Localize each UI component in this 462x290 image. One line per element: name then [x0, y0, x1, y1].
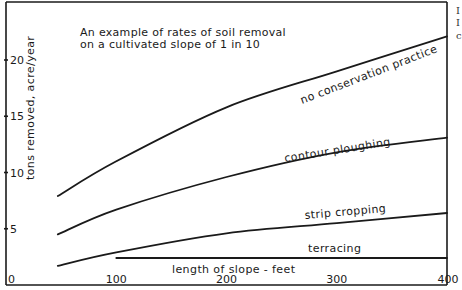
y-axis-ticks: 5101520 [4, 54, 24, 236]
edge-fragment-3: c [456, 30, 462, 41]
x-tick-label: 100 [106, 273, 127, 286]
x-tick-label: 400 [438, 273, 459, 286]
edge-fragment-1: I [456, 5, 460, 16]
series-curve-contour-ploughing [58, 138, 447, 235]
soil-removal-chart: 5101520 0100200300400 An example of rate… [0, 0, 462, 290]
edge-fragment-2: I [456, 17, 460, 28]
label-contour-ploughing: contour ploughing [283, 135, 391, 165]
x-tick-label: 300 [326, 273, 347, 286]
x-tick-label: 0 [8, 273, 15, 286]
y-tick-label: 5 [10, 223, 17, 236]
x-axis-title: length of slope - feet [172, 263, 296, 276]
y-tick-label: 15 [10, 110, 24, 123]
y-tick-label: 20 [10, 54, 24, 67]
y-tick-label: 10 [10, 167, 24, 180]
label-terracing: terracing [308, 242, 361, 255]
label-no-conservation: no conservation practice [298, 42, 439, 106]
chart-title-line-2: on a cultivated slope of 1 in 10 [80, 38, 260, 51]
y-axis-title: tons removed, acre/year [24, 36, 37, 180]
